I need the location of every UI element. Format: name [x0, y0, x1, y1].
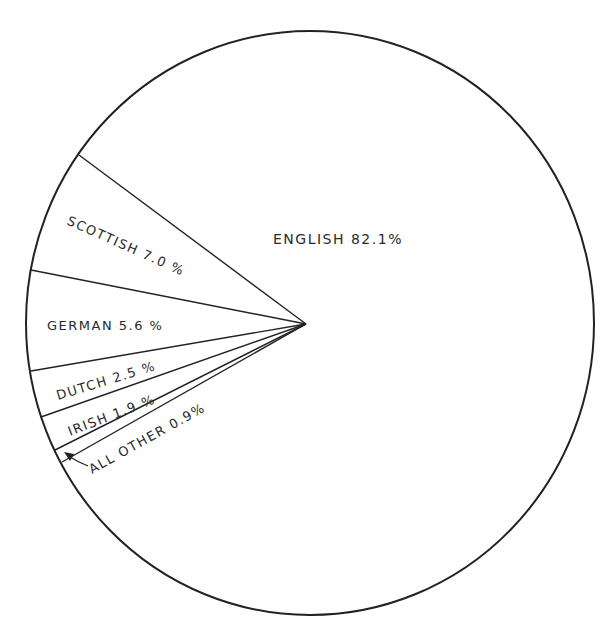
pie-chart: ENGLISH 82.1% SCOTTISH 7.0 % GERMAN 5.6 … — [0, 0, 610, 637]
slice-label-german: GERMAN 5.6 % — [47, 318, 163, 333]
slice-label-english: ENGLISH 82.1% — [273, 231, 403, 247]
